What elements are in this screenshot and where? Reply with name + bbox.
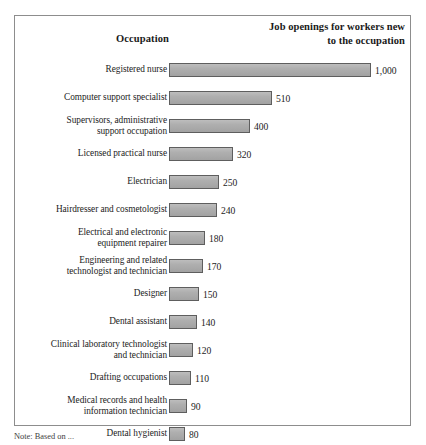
bar: [169, 91, 272, 105]
chart-row: Licensed practical nurse320: [15, 140, 410, 168]
bar: [169, 315, 197, 329]
bar: [169, 343, 193, 357]
bar-category-label: Electrician: [22, 176, 167, 187]
bar-category-label-line: Supervisors, administrative: [22, 115, 167, 126]
bar: [169, 203, 217, 217]
bar-category-label-line: Registered nurse: [22, 64, 167, 75]
bar-value-label: 170: [207, 261, 221, 272]
bar-zone: 250: [169, 175, 408, 189]
bar-category-label: Licensed practical nurse: [22, 148, 167, 159]
bar-value-label: 1,000: [375, 65, 397, 76]
bar: [169, 175, 219, 189]
bar-value-label: 240: [221, 205, 235, 216]
bar-zone: 120: [169, 343, 408, 357]
bar-category-label-line: Hairdresser and cosmetologist: [22, 204, 167, 215]
bar: [169, 287, 199, 301]
bar-zone: 240: [169, 203, 408, 217]
bar-category-label-line: support occupation: [22, 126, 167, 137]
bar-category-label-line: Engineering and related: [22, 255, 167, 266]
bar: [169, 63, 371, 77]
chart-row: Engineering and relatedtechnologist and …: [15, 252, 410, 280]
chart-row: Clinical laboratory technologistand tech…: [15, 336, 410, 364]
bar-category-label-line: Drafting occupations: [22, 372, 167, 383]
bar-category-label: Engineering and relatedtechnologist and …: [22, 255, 167, 277]
bar-category-label-line: Electrician: [22, 176, 167, 187]
bar-category-label: Medical records and healthinformation te…: [22, 395, 167, 417]
bar-zone: 90: [169, 399, 408, 413]
chart-row: Supervisors, administrativesupport occup…: [15, 112, 410, 140]
bar: [169, 231, 205, 245]
bar-value-label: 320: [237, 149, 251, 160]
bar-value-label: 400: [254, 121, 268, 132]
bar: [169, 259, 203, 273]
column-header-job-openings: Job openings for workers new to the occu…: [200, 20, 405, 47]
chart-row: Electrical and electronicequipment repai…: [15, 224, 410, 252]
bar-category-label-line: Electrical and electronic: [22, 227, 167, 238]
bar-value-label: 120: [197, 345, 211, 356]
bar-value-label: 510: [276, 93, 290, 104]
bar-value-label: 180: [209, 233, 223, 244]
column-header-occupation: Occupation: [70, 33, 215, 44]
bar-zone: 320: [169, 147, 408, 161]
bar-category-label-line: equipment repairer: [22, 238, 167, 249]
bar-category-label-line: Medical records and health: [22, 395, 167, 406]
bar-value-label: 250: [223, 177, 237, 188]
bar-category-label: Clinical laboratory technologistand tech…: [22, 339, 167, 361]
bar-category-label: Supervisors, administrativesupport occup…: [22, 115, 167, 137]
chart-frame: Occupation Job openings for workers new …: [14, 15, 411, 426]
bar: [169, 371, 191, 385]
bar: [169, 399, 187, 413]
bar-zone: 180: [169, 231, 408, 245]
bar-value-label: 90: [191, 401, 201, 412]
bar-value-label: 140: [201, 317, 215, 328]
bar-category-label-line: and technician: [22, 350, 167, 361]
bar-category-label: Registered nurse: [22, 64, 167, 75]
bar: [169, 147, 233, 161]
bar-category-label: Hairdresser and cosmetologist: [22, 204, 167, 215]
bar-category-label-line: Designer: [22, 288, 167, 299]
bar: [169, 119, 250, 133]
chart-row: Registered nurse1,000: [15, 56, 410, 84]
bar-zone: 110: [169, 371, 408, 385]
bar-category-label: Drafting occupations: [22, 372, 167, 383]
chart-row: Hairdresser and cosmetologist240: [15, 196, 410, 224]
chart-row: Computer support specialist510: [15, 84, 410, 112]
bar-zone: 150: [169, 287, 408, 301]
bar-value-label: 150: [203, 289, 217, 300]
source-note: Note: Based on ...: [14, 432, 414, 440]
bar-category-label-line: Clinical laboratory technologist: [22, 339, 167, 350]
chart-row: Electrician250: [15, 168, 410, 196]
bar-zone: 170: [169, 259, 408, 273]
chart-row: Drafting occupations110: [15, 364, 410, 392]
chart-row: Dental assistant140: [15, 308, 410, 336]
column-header-job-openings-line2: to the occupation: [200, 34, 405, 48]
bar-chart-plot-area: Registered nurse1,000Computer support sp…: [15, 56, 410, 445]
bar-zone: 400: [169, 119, 408, 133]
bar-zone: 1,000: [169, 63, 408, 77]
chart-row: Designer150: [15, 280, 410, 308]
bar-category-label-line: Licensed practical nurse: [22, 148, 167, 159]
bar-category-label: Computer support specialist: [22, 92, 167, 103]
bar-category-label: Electrical and electronicequipment repai…: [22, 227, 167, 249]
column-header-job-openings-line1: Job openings for workers new: [200, 20, 405, 34]
chart-row: Medical records and healthinformation te…: [15, 392, 410, 420]
bar-category-label-line: Dental assistant: [22, 316, 167, 327]
bar-category-label: Designer: [22, 288, 167, 299]
bar-value-label: 110: [195, 373, 209, 384]
bar-category-label-line: technologist and technician: [22, 266, 167, 277]
bar-category-label: Dental assistant: [22, 316, 167, 327]
bar-zone: 510: [169, 91, 408, 105]
bar-category-label-line: information technician: [22, 406, 167, 417]
bar-category-label-line: Computer support specialist: [22, 92, 167, 103]
bar-zone: 140: [169, 315, 408, 329]
